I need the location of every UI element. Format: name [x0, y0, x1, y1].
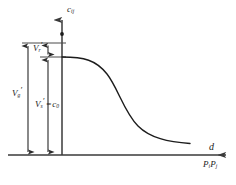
vs-label-rhs-sub: 0: [56, 103, 59, 109]
figure-svg: [0, 0, 236, 185]
x-axis-denominator-p2: P: [210, 159, 216, 169]
x-axis-denominator-p1: P: [203, 159, 209, 169]
vs-label-prime: ′: [43, 96, 45, 106]
x-axis-numerator-text: d: [209, 141, 214, 152]
y-axis-tick-icon: [60, 32, 64, 36]
y-axis-label-sub: ij: [71, 8, 74, 14]
x-axis-denominator-p2-sub: j: [216, 163, 218, 169]
vg-label-prime: ′: [21, 85, 23, 95]
vr-label-prime: ′: [41, 40, 43, 50]
vg-label-sub: g: [18, 92, 21, 98]
x-axis-denominator: PiPj: [203, 160, 217, 170]
figure-canvas: cij Vr′ Vg′ Vs′=c0 d PiPj: [0, 0, 236, 185]
vg-label: Vg′: [12, 86, 23, 98]
vg-label-main: V: [12, 88, 18, 98]
connection-strength-curve: [62, 57, 190, 144]
y-axis-label: cij: [67, 5, 74, 15]
x-axis-numerator: d: [209, 142, 214, 152]
vs-label: Vs′=c0: [35, 97, 59, 109]
vs-label-main: V: [35, 99, 41, 109]
vr-label-main: V: [33, 43, 39, 53]
vs-label-equals: =: [46, 99, 51, 109]
vr-label: Vr′: [33, 41, 43, 53]
